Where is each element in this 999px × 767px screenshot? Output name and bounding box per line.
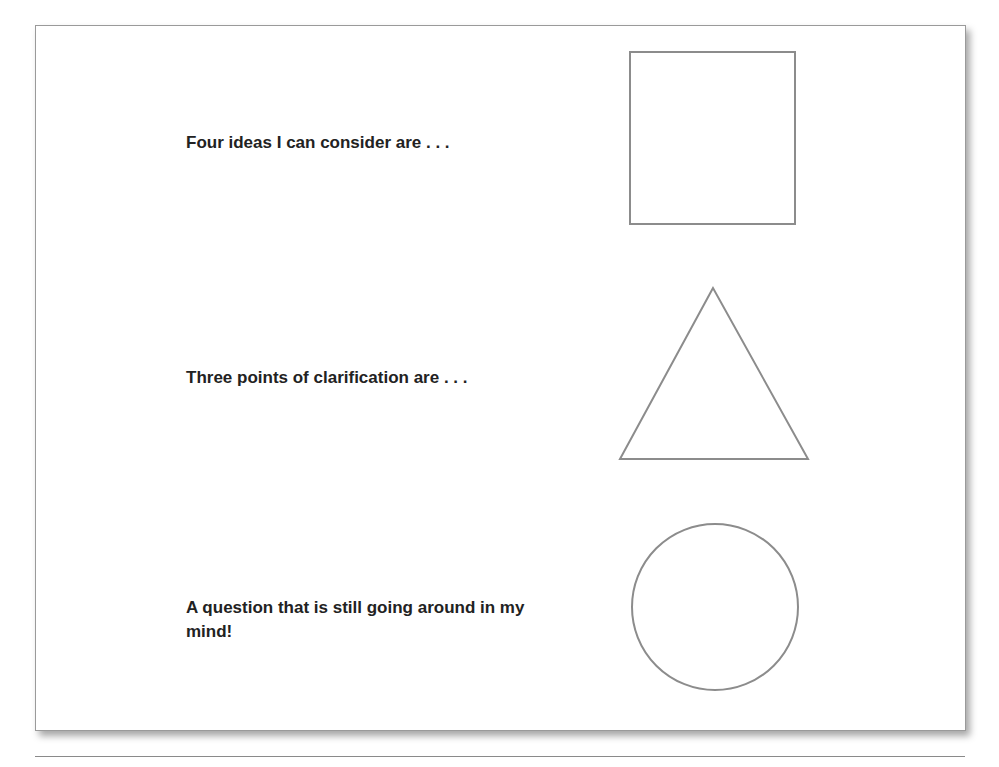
prompt-three-points: Three points of clarification are . . . xyxy=(186,366,468,390)
prompt-four-ideas: Four ideas I can consider are . . . xyxy=(186,131,450,155)
prompt-question: A question that is still going around in… xyxy=(186,596,556,644)
bottom-rule xyxy=(35,756,965,757)
